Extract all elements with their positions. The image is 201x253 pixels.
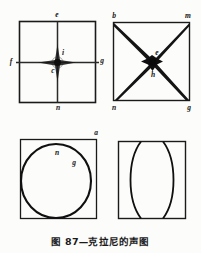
panel-circle: a n g [21, 128, 99, 219]
panel-diagonals: b m n g e h [112, 11, 191, 112]
panel-lens [119, 142, 186, 219]
label-g-diagonals: g [186, 103, 191, 112]
label-e-cross: e [55, 10, 59, 19]
label-m-diagonals: m [185, 11, 191, 20]
label-n-cross: n [56, 103, 60, 112]
label-i-cross: i [62, 48, 65, 57]
centre-node [54, 59, 61, 66]
nodal-arc-right [163, 142, 174, 219]
nodal-arc-left [131, 142, 142, 219]
figure-page: e f g n i c b m n g [0, 0, 201, 253]
label-n-diagonals: n [112, 103, 116, 112]
figure-canvas: e f g n i c b m n g [0, 0, 201, 228]
label-h-diagonals: h [151, 70, 155, 79]
figure-caption: 图 87—克拉尼的声图 [0, 228, 201, 253]
plate-outline-lens [119, 142, 186, 219]
panel-cross: e f g n i c [10, 10, 104, 112]
label-g-cross: g [99, 56, 104, 65]
centre-node-diagonals [149, 58, 157, 66]
label-n-circle: n [55, 148, 59, 157]
figure-caption-text: 图 87—克拉尼的声图 [51, 234, 149, 248]
chladni-figure-group: e f g n i c b m n g [0, 0, 201, 228]
label-f-cross: f [10, 57, 14, 66]
label-a-circle: a [94, 128, 98, 137]
label-b-diagonals: b [112, 11, 116, 20]
label-g-circle: g [71, 158, 76, 167]
